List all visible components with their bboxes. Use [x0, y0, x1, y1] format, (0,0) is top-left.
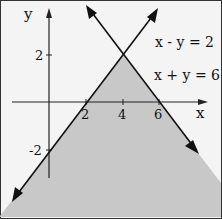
equation-label-1: x - y = 2	[155, 34, 214, 50]
x-axis-label: x	[196, 104, 205, 122]
y-axis-arrow-icon	[46, 8, 52, 18]
y-axis-label: y	[23, 5, 33, 23]
y-tick-label-2: 2	[35, 48, 43, 63]
inequality-graph: y x 2 4 6 2 -2 x - y = 2 x + y = 6	[0, 0, 222, 219]
equation-label-2: x + y = 6	[154, 67, 220, 83]
y-tick-label-neg2: -2	[29, 143, 42, 158]
x-tick-label-6: 6	[154, 107, 162, 122]
x-tick-label-4: 4	[118, 107, 126, 122]
x-tick-label-2: 2	[81, 107, 89, 122]
